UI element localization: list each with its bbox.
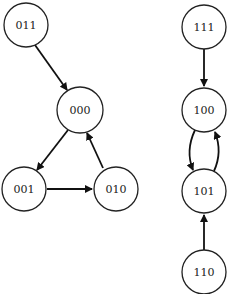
edge-100-101 [189,130,195,170]
node-label: 001 [14,183,35,196]
edge-010-000 [87,133,103,168]
node-label: 111 [194,21,215,34]
node-000: 000 [57,87,103,133]
state-graph: 011 000 001 010 111 100 101 110 [0,0,231,294]
node-label: 100 [194,104,215,117]
node-100: 100 [182,88,226,132]
node-001: 001 [2,167,46,211]
node-label: 110 [194,266,215,279]
edges [35,45,219,250]
edge-101-100 [214,132,219,171]
node-111: 111 [182,5,226,49]
node-label: 011 [16,19,37,32]
node-101: 101 [182,169,226,213]
node-011: 011 [4,3,48,47]
node-label: 000 [70,104,91,117]
edge-011-000 [35,45,67,90]
node-label: 101 [194,185,215,198]
edge-000-001 [37,130,68,170]
node-010: 010 [94,167,138,211]
node-label: 010 [106,183,127,196]
node-110: 110 [182,250,226,294]
